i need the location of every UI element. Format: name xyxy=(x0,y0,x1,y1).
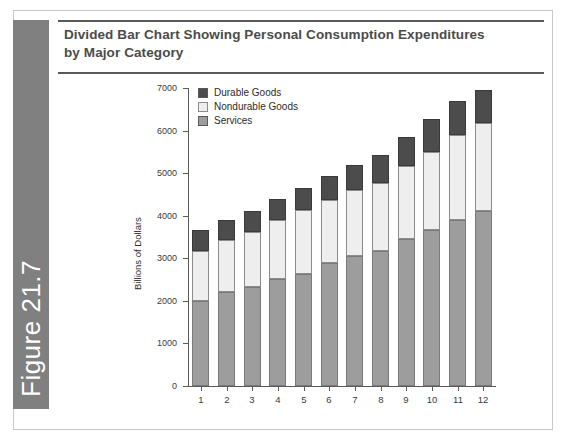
y-axis-tick-mark xyxy=(183,131,188,132)
x-axis-tick-label: 11 xyxy=(446,394,470,405)
bar-segment-nondurable[interactable] xyxy=(321,200,338,264)
bar-segment-services[interactable] xyxy=(398,239,415,386)
x-axis-tick-mark xyxy=(406,387,407,391)
bar-column[interactable] xyxy=(346,88,363,386)
x-axis-tick-label: 2 xyxy=(215,394,239,405)
bar-segment-services[interactable] xyxy=(449,220,466,386)
bar-segment-durable[interactable] xyxy=(449,101,466,135)
y-axis-tick-label: 6000 xyxy=(143,126,177,136)
legend-swatch-durable xyxy=(198,88,208,98)
x-axis-tick-mark xyxy=(304,387,305,391)
bar-column[interactable] xyxy=(398,88,415,386)
bar-segment-services[interactable] xyxy=(218,292,235,386)
bar-segment-nondurable[interactable] xyxy=(269,220,286,279)
x-axis-tick-label: 10 xyxy=(420,394,444,405)
y-axis-tick-mark xyxy=(183,258,188,259)
x-axis-tick-label: 8 xyxy=(369,394,393,405)
bar-segment-durable[interactable] xyxy=(295,188,312,210)
x-axis-line xyxy=(188,386,496,387)
y-axis-tick-mark xyxy=(183,301,188,302)
bar-segment-nondurable[interactable] xyxy=(372,183,389,252)
x-axis-tick-mark xyxy=(458,387,459,391)
bar-column[interactable] xyxy=(269,88,286,386)
bar-segment-durable[interactable] xyxy=(398,137,415,166)
y-axis-tick-label: 7000 xyxy=(143,83,177,93)
bar-segment-services[interactable] xyxy=(423,230,440,386)
bar-segment-nondurable[interactable] xyxy=(218,240,235,292)
x-axis-tick-label: 12 xyxy=(471,394,495,405)
bar-segment-services[interactable] xyxy=(475,211,492,386)
y-axis-tick-label: 0 xyxy=(143,381,177,391)
bar-segment-durable[interactable] xyxy=(321,176,338,200)
bar-segment-durable[interactable] xyxy=(192,230,209,251)
title-rule-top xyxy=(58,20,544,22)
y-axis-tick-mark xyxy=(183,343,188,344)
bar-segment-services[interactable] xyxy=(346,256,363,386)
bar-column[interactable] xyxy=(244,88,261,386)
y-axis-tick-label: 4000 xyxy=(143,211,177,221)
x-axis-tick-label: 3 xyxy=(240,394,264,405)
title-rule-bottom xyxy=(58,72,544,74)
legend-swatch-services xyxy=(198,116,208,126)
bar-segment-nondurable[interactable] xyxy=(449,135,466,219)
bar-column[interactable] xyxy=(475,88,492,386)
bar-segment-durable[interactable] xyxy=(346,165,363,190)
legend-item-label: Nondurable Goods xyxy=(214,101,298,112)
bar-segment-nondurable[interactable] xyxy=(346,190,363,256)
bar-segment-durable[interactable] xyxy=(475,90,492,123)
bar-segment-services[interactable] xyxy=(295,274,312,386)
x-axis-tick-mark xyxy=(227,387,228,391)
bar-column[interactable] xyxy=(321,88,338,386)
x-axis-tick-label: 4 xyxy=(266,394,290,405)
bar-column[interactable] xyxy=(423,88,440,386)
bar-segment-services[interactable] xyxy=(244,287,261,386)
legend-item[interactable]: Services xyxy=(198,114,298,127)
x-axis-tick-mark xyxy=(355,387,356,391)
bar-segment-nondurable[interactable] xyxy=(295,210,312,273)
figure-number-label: Figure 21.7 xyxy=(13,20,49,409)
bar-segment-durable[interactable] xyxy=(423,119,440,152)
y-axis-tick-mark xyxy=(183,216,188,217)
bar-segment-durable[interactable] xyxy=(269,199,286,221)
bar-segment-nondurable[interactable] xyxy=(244,232,261,286)
page-title: Divided Bar Chart Showing Personal Consu… xyxy=(64,26,542,62)
legend-item[interactable]: Durable Goods xyxy=(198,86,298,99)
figure-number-band: Figure 21.7 xyxy=(13,20,49,409)
bar-column[interactable] xyxy=(449,88,466,386)
bar-column[interactable] xyxy=(192,88,209,386)
bar-segment-services[interactable] xyxy=(192,301,209,386)
chart-legend: Durable GoodsNondurable GoodsServices xyxy=(198,86,298,128)
x-axis-tick-mark xyxy=(381,387,382,391)
bar-column[interactable] xyxy=(295,88,312,386)
bar-segment-durable[interactable] xyxy=(372,155,389,183)
y-axis-tick-label: 2000 xyxy=(143,296,177,306)
bar-segment-services[interactable] xyxy=(321,263,338,386)
bar-segment-durable[interactable] xyxy=(244,211,261,232)
x-axis-tick-mark xyxy=(432,387,433,391)
y-axis-tick-mark xyxy=(183,173,188,174)
bar-segment-nondurable[interactable] xyxy=(475,123,492,211)
x-axis-tick-label: 9 xyxy=(394,394,418,405)
bar-segment-services[interactable] xyxy=(372,251,389,386)
legend-item[interactable]: Nondurable Goods xyxy=(198,100,298,113)
x-axis-tick-mark xyxy=(483,387,484,391)
bar-segment-services[interactable] xyxy=(269,279,286,386)
bar-segment-nondurable[interactable] xyxy=(398,166,415,239)
x-axis-tick-label: 1 xyxy=(189,394,213,405)
legend-item-label: Durable Goods xyxy=(214,87,281,98)
y-axis-title: Billions of Dollars xyxy=(132,217,143,290)
page-title-line-1: Divided Bar Chart Showing Personal Consu… xyxy=(64,26,542,44)
x-axis-tick-label: 7 xyxy=(343,394,367,405)
x-axis-tick-label: 6 xyxy=(317,394,341,405)
bar-column[interactable] xyxy=(218,88,235,386)
bar-segment-nondurable[interactable] xyxy=(192,251,209,302)
page-title-line-2: by Major Category xyxy=(64,44,542,62)
x-axis-tick-mark xyxy=(201,387,202,391)
legend-swatch-nondurable xyxy=(198,102,208,112)
bar-segment-nondurable[interactable] xyxy=(423,152,440,230)
bar-segment-durable[interactable] xyxy=(218,220,235,239)
x-axis-tick-mark xyxy=(252,387,253,391)
y-axis-tick-mark xyxy=(183,386,188,387)
y-axis-tick-label: 5000 xyxy=(143,168,177,178)
bar-column[interactable] xyxy=(372,88,389,386)
